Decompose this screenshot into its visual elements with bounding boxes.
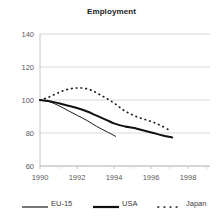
legend-label-japan: Japan [186,199,206,208]
gridlines [40,34,210,166]
legend-item-japan[interactable]: Japan [157,196,206,210]
legend-label-eu-15: EU-15 [51,199,72,208]
legend-item-usa[interactable]: USA [93,196,137,210]
legend-swatch-japan-icon [157,198,183,208]
legend-swatch-usa-icon [93,198,119,208]
legend-item-eu-15[interactable]: EU-15 [22,196,72,210]
legend-swatch-eu-15-icon [22,198,48,208]
series-line-japan [40,88,168,130]
plot-area [0,0,223,219]
chart-legend: EU-15 USA Japan [0,196,223,216]
employment-chart: Employment 140 120 100 80 60 1990 1992 1… [0,0,223,219]
legend-label-usa: USA [122,199,137,208]
